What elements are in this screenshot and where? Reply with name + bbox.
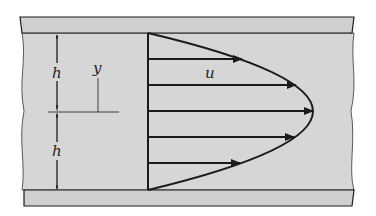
velocity-profile-diagram: h h y u: [0, 0, 376, 216]
label-u: u: [205, 64, 215, 82]
label-h-top: h: [52, 64, 62, 82]
top-plate: [20, 17, 354, 33]
bottom-plate: [24, 190, 354, 206]
label-y: y: [92, 59, 102, 77]
label-h-bottom: h: [52, 142, 62, 160]
